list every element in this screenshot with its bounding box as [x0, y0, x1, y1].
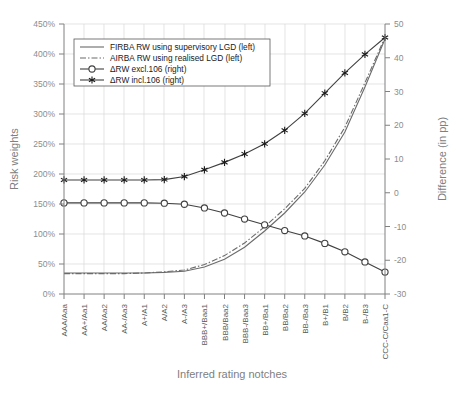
- data-point-circle: [201, 205, 207, 211]
- right-tick-label: -10: [394, 222, 407, 232]
- x-tick-label: BBB/Baa2: [221, 303, 230, 340]
- left-tick-label: 0%: [43, 289, 56, 299]
- x-tick-label: AA/Aa2: [100, 303, 109, 331]
- left-tick-label: 400%: [33, 49, 55, 59]
- data-point-circle: [101, 200, 107, 206]
- left-tick-label: 300%: [33, 109, 55, 119]
- x-tick-label: B+/B1: [321, 303, 330, 326]
- left-tick-label: 150%: [33, 199, 55, 209]
- data-point-circle: [282, 227, 288, 233]
- x-tick-label: B/B2: [341, 303, 350, 321]
- right-tick-label: 10: [394, 154, 404, 164]
- x-tick-label: AA-/Aa3: [120, 303, 129, 333]
- data-point-circle: [302, 233, 308, 239]
- right-tick-label: 30: [394, 87, 404, 97]
- x-tick-label: A-/A3: [180, 303, 189, 324]
- left-tick-label: 250%: [33, 139, 55, 149]
- x-tick-label: BBB+/Baa1: [200, 303, 209, 345]
- y2-axis-title: Difference (in pp): [436, 117, 448, 201]
- x-tick-label: A+/A1: [140, 303, 149, 326]
- data-point-circle: [322, 240, 328, 246]
- left-tick-label: 200%: [33, 169, 55, 179]
- y-axis-title: Risk weights: [8, 128, 20, 190]
- legend-label-drw-incl: ΔRW incl.106 (right): [110, 75, 184, 85]
- left-tick-label: 100%: [33, 229, 55, 239]
- right-tick-label: 20: [394, 120, 404, 130]
- right-tick-label: 0: [394, 188, 399, 198]
- x-tick-label: BB-/Ba3: [301, 303, 310, 333]
- risk-weight-chart: 0%50%100%150%200%250%300%350%400%450% -3…: [0, 0, 462, 394]
- x-axis-title: Inferred rating notches: [177, 368, 288, 380]
- data-point-circle: [221, 210, 227, 216]
- legend: FIRBA RW using supervisory LGD (left) AI…: [74, 39, 270, 86]
- right-tick-label: -20: [394, 255, 407, 265]
- x-tick-label: BB+/Ba1: [261, 303, 270, 335]
- x-tick-label: A/A2: [160, 303, 169, 321]
- data-point-circle: [342, 249, 348, 255]
- data-point-circle: [121, 200, 127, 206]
- x-tick-label: CCC-C/Caa1-C: [381, 304, 390, 360]
- legend-label-airba: AIRBA RW using realised LGD (left): [110, 53, 242, 63]
- data-point-circle: [362, 259, 368, 265]
- x-tick-label: AAA/Aaa: [60, 303, 69, 336]
- left-tick-label: 450%: [33, 19, 55, 29]
- left-tick-label: 50%: [38, 259, 55, 269]
- x-tick-label: BBB-/Baa3: [241, 303, 250, 343]
- right-tick-label: -30: [394, 289, 407, 299]
- data-point-circle: [81, 200, 87, 206]
- x-tick-label: B-/B3: [361, 303, 370, 324]
- data-point-circle: [141, 200, 147, 206]
- data-point-circle: [181, 201, 187, 207]
- legend-marker-circle-icon: [89, 66, 95, 72]
- data-point-circle: [161, 200, 167, 206]
- data-point-circle: [262, 222, 268, 228]
- left-tick-label: 350%: [33, 79, 55, 89]
- right-tick-label: 50: [394, 19, 404, 29]
- x-tick-label: AA+/Aa1: [80, 303, 89, 335]
- x-tick-label: BB/Ba2: [281, 303, 290, 331]
- legend-label-drw-excl: ΔRW excl.106 (right): [110, 64, 187, 74]
- legend-label-firba: FIRBA RW using supervisory LGD (left): [110, 42, 255, 52]
- data-point-circle: [241, 216, 247, 222]
- right-tick-label: 40: [394, 53, 404, 63]
